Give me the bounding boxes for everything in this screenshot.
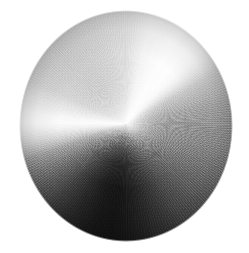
image-canvas — [0, 0, 249, 253]
disc-edge-vignette — [19, 10, 233, 242]
metal-disc — [19, 10, 233, 242]
